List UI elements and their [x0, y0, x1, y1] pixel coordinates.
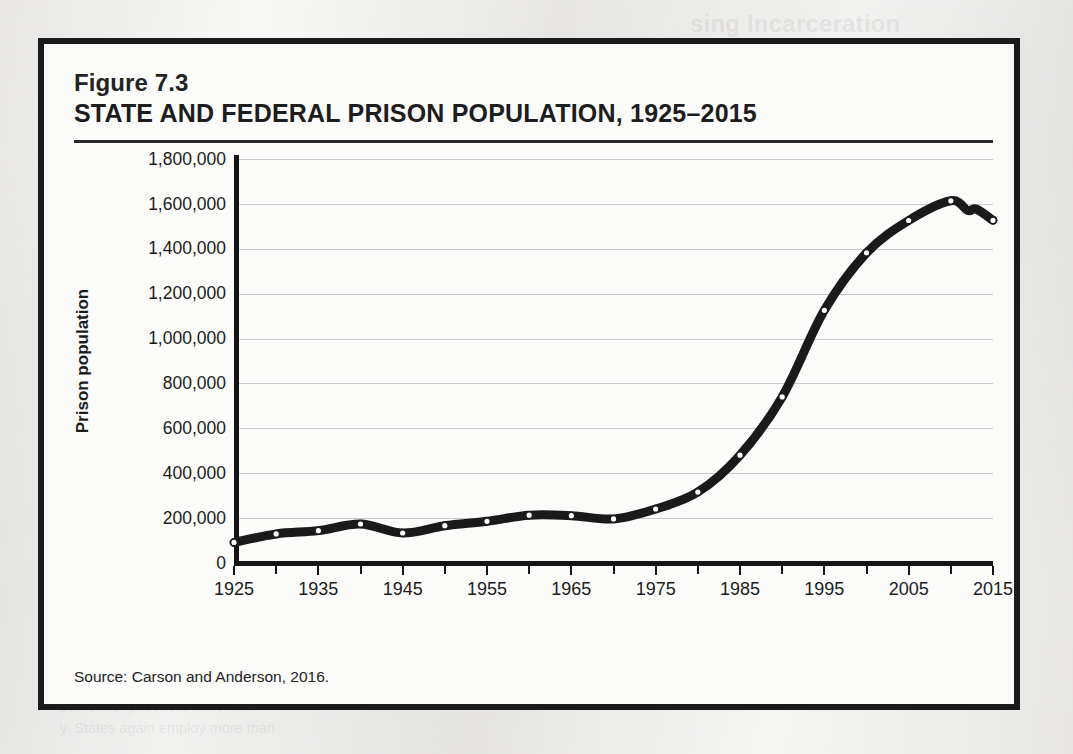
data-point-marker	[694, 488, 701, 495]
x-tick-label: 2015	[953, 579, 1033, 600]
x-tick-major	[655, 566, 657, 575]
x-tick-minor	[528, 566, 530, 574]
data-line-series	[234, 159, 993, 563]
x-tick-major	[402, 566, 404, 575]
y-tick-label: 400,000	[126, 462, 226, 483]
bleedthrough-line: sing Incarceration	[690, 10, 900, 38]
x-tick-major	[992, 566, 994, 575]
y-tick-label: 1,200,000	[126, 283, 226, 304]
source-note: Source: Carson and Anderson, 2016.	[74, 668, 329, 686]
x-tick-minor	[950, 566, 952, 574]
chart-plot-area: Prison population 1,800,0001,600,0001,40…	[74, 159, 993, 611]
y-axis-tick-labels: 1,800,0001,600,0001,400,0001,200,0001,00…	[104, 159, 226, 563]
data-point-marker	[357, 520, 364, 527]
x-tick-minor	[697, 566, 699, 574]
x-tick-minor	[613, 566, 615, 574]
x-tick-minor	[275, 566, 277, 574]
figure-title: STATE AND FEDERAL PRISON POPULATION, 192…	[74, 99, 984, 128]
data-point-marker	[652, 505, 659, 512]
bleedthrough-line: y. States again employ more than	[60, 720, 275, 736]
x-tick-major	[486, 566, 488, 575]
x-tick-major	[823, 566, 825, 575]
data-point-marker	[779, 393, 786, 400]
y-tick-label: 1,600,000	[126, 193, 226, 214]
y-axis-title: Prison population	[70, 159, 96, 563]
series-line	[234, 200, 993, 542]
y-tick-label: 1,000,000	[126, 328, 226, 349]
x-tick-label: 1975	[616, 579, 696, 600]
x-tick-minor	[866, 566, 868, 574]
x-tick-label: 1925	[194, 579, 274, 600]
data-point-marker	[821, 307, 828, 314]
x-tick-label: 1955	[447, 579, 527, 600]
y-tick-label: 0	[126, 552, 226, 573]
chart-axes: 1925193519451955196519751985199520052015	[234, 159, 993, 563]
x-tick-major	[317, 566, 319, 575]
x-tick-label: 1965	[531, 579, 611, 600]
y-tick-label: 600,000	[126, 417, 226, 438]
y-tick-label: 200,000	[126, 507, 226, 528]
x-tick-label: 2005	[869, 579, 949, 600]
x-tick-major	[233, 566, 235, 575]
data-point-marker	[947, 197, 954, 204]
x-tick-label: 1935	[278, 579, 358, 600]
data-point-marker	[863, 249, 870, 256]
x-tick-major	[570, 566, 572, 575]
data-point-marker	[231, 539, 238, 546]
y-tick-label: 1,400,000	[126, 238, 226, 259]
x-tick-minor	[360, 566, 362, 574]
x-tick-major	[908, 566, 910, 575]
data-point-marker	[484, 518, 491, 525]
data-point-marker	[905, 217, 912, 224]
y-tick-label: 800,000	[126, 373, 226, 394]
x-tick-minor	[781, 566, 783, 574]
data-point-marker	[273, 530, 280, 537]
data-point-marker	[399, 529, 406, 536]
x-tick-label: 1945	[363, 579, 443, 600]
data-point-marker	[568, 512, 575, 519]
x-tick-label: 1995	[784, 579, 864, 600]
data-point-marker	[315, 527, 322, 534]
x-tick-label: 1985	[700, 579, 780, 600]
x-tick-major	[739, 566, 741, 575]
data-point-marker	[441, 522, 448, 529]
figure-box: Figure 7.3 STATE AND FEDERAL PRISON POPU…	[38, 38, 1020, 710]
x-tick-minor	[444, 566, 446, 574]
title-rule	[74, 140, 993, 143]
data-point-marker	[526, 511, 533, 518]
data-point-marker	[737, 451, 744, 458]
data-point-marker	[610, 515, 617, 522]
figure-number: Figure 7.3	[74, 70, 984, 97]
y-tick-label: 1,800,000	[126, 148, 226, 169]
y-axis-title-text: Prison population	[73, 288, 93, 433]
data-point-marker	[990, 217, 997, 224]
